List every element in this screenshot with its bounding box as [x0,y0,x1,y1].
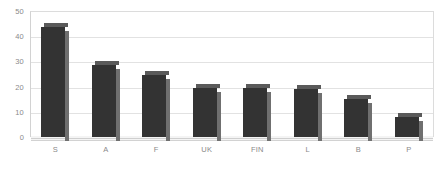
bar[interactable] [344,99,368,137]
x-axis-tick-labels: SAFUKFINLBP [30,145,434,165]
y-axis-tick-label: 30 [15,57,24,66]
bar[interactable] [193,88,217,137]
x-axis-tick-label: B [356,145,361,154]
x-axis-tick-label: S [53,145,58,154]
x-axis-tick-label: L [306,145,310,154]
y-axis-tick-label: 0 [20,133,24,142]
axis-baseline [31,138,433,139]
bar-slot [395,11,419,137]
bar-slot [344,11,368,137]
bar[interactable] [41,27,65,137]
bar-slot [193,11,217,137]
bar-slot [294,11,318,137]
y-axis-tick-label: 10 [15,107,24,116]
y-axis-tick-label: 40 [15,32,24,41]
y-axis-tick-label: 50 [15,7,24,16]
bar-slot [92,11,116,137]
x-axis-tick-label: A [103,145,108,154]
bar-chart: 01020304050 SAFUKFINLBP [0,0,440,170]
x-axis-tick-label: FIN [251,145,264,154]
x-axis-tick-label: UK [201,145,212,154]
y-axis-tick-label: 20 [15,82,24,91]
bar[interactable] [294,89,318,137]
y-axis-tick-labels: 01020304050 [0,0,28,170]
bar[interactable] [243,88,267,137]
x-axis-tick-label: F [154,145,159,154]
bar-slot [41,11,65,137]
bar-slot [243,11,267,137]
bar[interactable] [92,65,116,137]
bar-slot [142,11,166,137]
bar[interactable] [395,117,419,137]
x-axis-tick-label: P [406,145,411,154]
bar-series [30,11,434,137]
bar[interactable] [142,75,166,137]
